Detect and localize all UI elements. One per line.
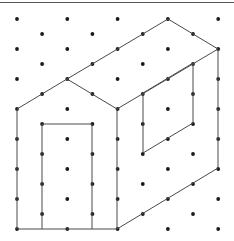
grid-dot xyxy=(166,227,170,231)
grid-dot xyxy=(116,197,120,201)
isometric-drawing-canvas xyxy=(0,0,234,241)
grid-dot xyxy=(141,182,145,186)
grid-dot xyxy=(116,17,120,21)
front-gable-right xyxy=(67,79,117,109)
roof-back-eave xyxy=(168,19,218,49)
grid-dot xyxy=(166,107,170,111)
grid-dot xyxy=(65,47,69,51)
grid-dot xyxy=(166,167,170,171)
grid-dot xyxy=(15,47,19,51)
grid-dot xyxy=(191,212,195,216)
side-bottom xyxy=(117,168,218,229)
grid-dot xyxy=(40,32,44,36)
grid-dot xyxy=(116,137,120,141)
roof-ridge xyxy=(67,19,168,79)
grid-dot xyxy=(216,17,220,21)
grid-dot xyxy=(65,137,69,141)
grid-dot xyxy=(216,197,220,201)
front-gable-left xyxy=(17,79,67,109)
grid-dot xyxy=(65,197,69,201)
grid-dot xyxy=(191,152,195,156)
house-drawing xyxy=(0,0,234,241)
grid-dot xyxy=(65,107,69,111)
grid-dot xyxy=(116,77,120,81)
grid-dot xyxy=(116,167,120,171)
grid-dot xyxy=(40,62,44,66)
grid-dot xyxy=(65,17,69,21)
grid-dot xyxy=(166,47,170,51)
roof-front-eave xyxy=(117,49,218,109)
grid-dot xyxy=(141,62,145,66)
grid-dot xyxy=(15,17,19,21)
grid-dot xyxy=(91,32,95,36)
grid-dot xyxy=(216,227,220,231)
grid-dot xyxy=(65,167,69,171)
grid-dot xyxy=(15,77,19,81)
